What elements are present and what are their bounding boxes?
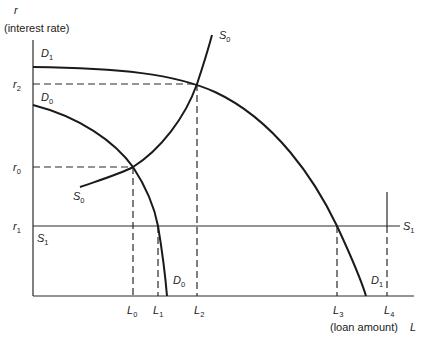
d0-curve [33, 105, 167, 296]
tick-L3: L3 [333, 304, 343, 319]
x-axis-label: (loan amount) [330, 321, 398, 333]
tick-r1: r1 [13, 220, 21, 235]
label-d0-bottom: D0 [173, 274, 185, 289]
tick-r0: r0 [13, 161, 21, 176]
label-s1-left: S1 [37, 232, 49, 247]
tick-L2: L2 [194, 304, 204, 319]
loan-market-diagram: r (interest rate) r2 r0 r1 L0 L1 L2 L3 L… [0, 0, 428, 343]
s0-curve [80, 35, 212, 187]
label-s0-bottom: S0 [73, 190, 85, 205]
label-s0-top: S0 [219, 29, 231, 44]
y-axis-label: (interest rate) [4, 22, 69, 34]
tick-L4: L4 [384, 304, 394, 319]
tick-L0: L0 [127, 304, 137, 319]
label-s1-right: S1 [403, 220, 415, 235]
x-axis-symbol: L [410, 321, 416, 333]
label-d0-top: D0 [41, 91, 53, 106]
label-d1-top: D1 [41, 47, 53, 62]
y-axis-symbol: r [14, 4, 19, 16]
d1-curve [33, 67, 366, 296]
tick-L1: L1 [153, 304, 163, 319]
tick-r2: r2 [13, 78, 21, 93]
label-d1-bottom: D1 [371, 274, 383, 289]
